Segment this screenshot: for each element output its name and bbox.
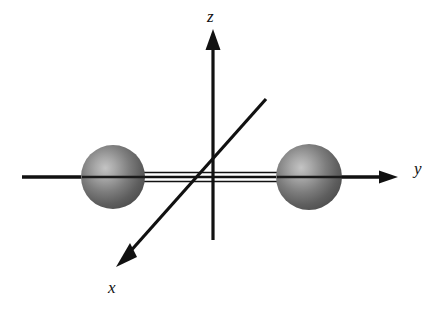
- z-axis-arrowhead: [206, 29, 221, 50]
- x-axis-label: x: [108, 279, 116, 296]
- y-axis-arrowhead: [379, 171, 398, 184]
- z-axis-label: z: [207, 8, 214, 25]
- axes-and-spheres-diagram: [0, 0, 445, 309]
- figure-canvas: z y x: [0, 0, 445, 309]
- y-axis-label: y: [414, 160, 422, 177]
